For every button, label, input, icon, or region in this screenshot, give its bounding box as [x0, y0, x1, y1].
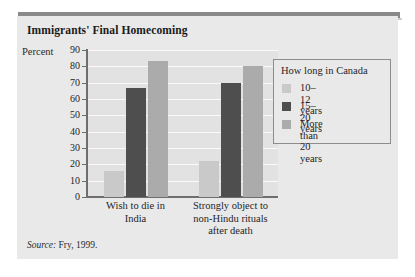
x-axis-category-label: Strongly object to non-Hindu rituals aft…: [171, 200, 290, 238]
y-axis-tick: [82, 115, 86, 116]
y-axis-tick-label: 70: [58, 77, 80, 88]
y-axis-tick-label: 50: [58, 109, 80, 120]
y-axis-tick: [82, 99, 86, 100]
gridline: [88, 50, 278, 51]
y-axis-tick-label: 10: [58, 175, 80, 186]
y-axis-tick-label: 80: [58, 60, 80, 71]
y-axis-tick-label: 40: [58, 126, 80, 137]
source-note: Source: Fry, 1999.: [27, 240, 97, 250]
y-axis-tick-label: 20: [58, 158, 80, 169]
legend-swatch-icon: [282, 120, 291, 129]
y-axis-line: [86, 49, 88, 198]
y-axis-title: Percent: [22, 46, 54, 57]
legend-label: More than 20 years: [300, 118, 323, 164]
bar: [126, 88, 146, 197]
bar: [148, 61, 168, 197]
page-title: Immigrants' Final Homecoming: [27, 24, 188, 36]
y-axis-tick: [82, 197, 86, 198]
source-label: Source:: [27, 240, 56, 250]
figure: Immigrants' Final Homecoming Percent 010…: [0, 0, 415, 277]
bar: [221, 83, 241, 197]
y-axis-tick-label: 60: [58, 93, 80, 104]
legend-swatch-icon: [282, 84, 291, 93]
y-axis-tick: [82, 50, 86, 51]
bar: [243, 66, 263, 197]
legend-title: How long in Canada: [281, 65, 368, 76]
bar: [199, 161, 219, 197]
y-axis-tick-label: 30: [58, 142, 80, 153]
chart-legend: How long in Canada 10–12 years15–20 year…: [273, 59, 391, 144]
y-axis-tick: [82, 164, 86, 165]
y-axis-tick: [82, 148, 86, 149]
source-citation: Fry, 1999.: [59, 240, 98, 250]
y-axis-tick-label: 90: [58, 44, 80, 55]
bar: [104, 171, 124, 197]
y-axis-tick: [82, 181, 86, 182]
legend-swatch-icon: [282, 102, 291, 111]
y-axis-tick: [82, 132, 86, 133]
y-axis-tick: [82, 66, 86, 67]
y-axis-tick: [82, 83, 86, 84]
